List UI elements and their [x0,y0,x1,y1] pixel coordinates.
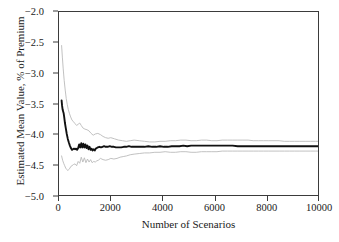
y-tick-label: −4.0 [25,129,44,140]
x-tick-mark [267,196,268,201]
x-tick-mark [162,196,163,201]
chart-figure: Estimated Mean Value, % of Premium −2.0−… [0,0,339,242]
x-tick-mark [58,196,59,201]
y-tick-label: −3.5 [25,98,44,109]
x-tick-mark [318,196,319,201]
x-tick-mark [215,196,216,201]
y-tick-label: −2.5 [25,36,44,47]
x-tick-label: 10000 [306,202,332,213]
x-tick-label: 2000 [100,202,121,213]
plot-area [58,11,319,196]
x-tick-label: 6000 [204,202,225,213]
chart-series-line [62,151,318,171]
y-tick-label: −5.0 [25,191,44,202]
x-axis-tick-labels: 0200040006000800010000 [58,202,319,216]
chart-series-line [62,100,318,150]
y-axis-tick-labels: −2.0−2.5−3.0−3.5−4.0−4.5−5.0 [0,11,52,196]
x-axis-title: Number of Scenarios [58,218,319,230]
x-tick-label: 0 [55,202,60,213]
y-tick-label: −4.5 [25,160,44,171]
x-tick-label: 8000 [256,202,277,213]
chart-plot-svg [59,12,318,195]
y-tick-label: −2.0 [25,6,44,17]
chart-series-line [62,46,318,142]
y-tick-label: −3.0 [25,67,44,78]
x-tick-label: 4000 [152,202,173,213]
x-tick-mark [110,196,111,201]
